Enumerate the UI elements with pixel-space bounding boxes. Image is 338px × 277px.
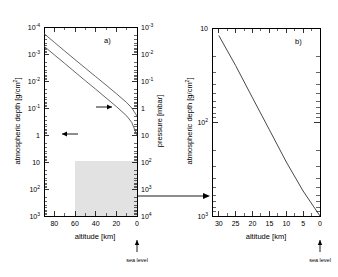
panel-b-left-minor-ticks: [212, 56, 216, 212]
panel-b-right-ticks: [314, 28, 320, 216]
svg-text:25: 25: [232, 220, 240, 227]
svg-text:104: 104: [141, 211, 152, 220]
svg-text:10-2: 10-2: [28, 76, 40, 85]
panel-a-ylabel-right: pressure [mbar]: [155, 95, 164, 148]
svg-text:15: 15: [266, 220, 274, 227]
panel-a-right-tick-labels: 10-3 10-2 10-1 1 10 102 103 104: [141, 22, 153, 220]
svg-text:10-3: 10-3: [141, 22, 153, 31]
svg-text:10-1: 10-1: [141, 76, 153, 85]
atmospheric-depth-figure: a) 10-4 10-3 10-2 10-1 1 10 102 103 10-3…: [0, 0, 338, 277]
svg-text:0: 0: [135, 220, 139, 227]
panel-b-bottom-ticks: [219, 211, 320, 216]
svg-text:103: 103: [141, 184, 152, 193]
panel-a-top-ticks: [54, 27, 126, 32]
panel-b-sea-level-marker: sea level: [309, 240, 331, 263]
svg-text:103: 103: [197, 211, 208, 220]
panel-b-label: b): [295, 37, 302, 46]
panel-b-top-ticks: [219, 28, 312, 33]
panel-b-xlabel: altitude [km]: [246, 232, 286, 241]
svg-text:20: 20: [112, 220, 120, 227]
svg-text:1: 1: [36, 132, 40, 139]
panel-a-sea-level-marker: sea level: [126, 240, 148, 263]
panel-connector-arrow: [138, 193, 210, 199]
svg-text:10-2: 10-2: [141, 49, 153, 58]
panel-b-x-tick-labels: 30 25 20 15 10 5 0: [215, 220, 322, 227]
svg-text:102: 102: [197, 117, 208, 126]
panel-a-arrow-to-depth-axis: [62, 132, 78, 137]
panel-a-shaded-region: [75, 161, 137, 216]
figure-svg: a) 10-4 10-3 10-2 10-1 1 10 102 103 10-3…: [0, 0, 338, 277]
panel-b-y-tick-labels: 10 102 103: [197, 25, 208, 220]
svg-text:102: 102: [141, 157, 152, 166]
svg-text:30: 30: [215, 220, 223, 227]
panel-b-depth-curve: [219, 36, 320, 217]
svg-text:60: 60: [71, 220, 79, 227]
svg-text:10-4: 10-4: [28, 22, 40, 31]
panel-a-ylabel-left: atmospheric depth [g/cm2]: [12, 78, 22, 165]
panel-a-depth-curve: [44, 46, 137, 135]
panel-b-frame: [212, 28, 320, 216]
svg-text:80: 80: [50, 220, 58, 227]
svg-text:0: 0: [318, 220, 322, 227]
panel-a-left-tick-labels: 10-4 10-3 10-2 10-1 1 10 102 103: [28, 22, 40, 220]
panel-a-x-tick-labels: 80 60 40 20 0: [50, 220, 139, 227]
panel-b: b) 10 102 103 30 25 20 15 10 5 0 altitud…: [184, 25, 331, 264]
svg-text:10-3: 10-3: [28, 49, 40, 58]
svg-text:20: 20: [249, 220, 257, 227]
svg-text:5: 5: [301, 220, 305, 227]
svg-text:10: 10: [32, 159, 40, 166]
panel-a-sea-level-label: sea level: [126, 257, 148, 263]
svg-text:1: 1: [141, 105, 145, 112]
panel-a: a) 10-4 10-3 10-2 10-1 1 10 102 103 10-3…: [12, 22, 164, 264]
svg-text:10-1: 10-1: [28, 103, 40, 112]
panel-a-arrow-to-pressure-axis: [96, 105, 112, 110]
panel-a-label: a): [104, 36, 111, 45]
panel-b-sea-level-label: sea level: [309, 257, 331, 263]
panel-a-pressure-curve: [44, 34, 137, 117]
svg-text:102: 102: [29, 184, 40, 193]
svg-text:10: 10: [282, 220, 290, 227]
svg-text:103: 103: [29, 211, 40, 220]
svg-text:10: 10: [141, 132, 149, 139]
panel-b-ylabel: atmospheric depth [g/cm2]: [184, 78, 194, 165]
svg-text:10: 10: [200, 25, 208, 32]
svg-text:40: 40: [92, 220, 100, 227]
panel-a-xlabel: altitude [km]: [75, 232, 115, 241]
